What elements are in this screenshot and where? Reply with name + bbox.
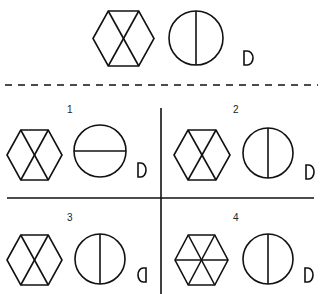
hexagon-x-cross <box>93 11 154 66</box>
option-label: 1 <box>67 104 73 115</box>
circle-vertical-divider <box>243 128 293 178</box>
hexagon-six-spokes <box>175 235 228 285</box>
d-shape-right <box>244 51 253 65</box>
circle-vertical-divider <box>75 234 125 284</box>
hexagon-x-cross <box>7 235 62 285</box>
option-label: 4 <box>233 212 239 223</box>
hexagon-x-cross <box>7 130 62 180</box>
d-shape-left <box>138 268 146 282</box>
question-figure <box>93 11 253 66</box>
circle-vertical-divider <box>243 234 293 284</box>
d-shape-right <box>306 165 314 179</box>
puzzle-canvas: 1 2 3 4 <box>0 0 324 294</box>
option-label: 3 <box>67 212 73 223</box>
option-label: 2 <box>233 104 239 115</box>
d-shape-right <box>305 268 313 282</box>
option-4[interactable]: 4 <box>175 212 313 285</box>
option-2[interactable]: 2 <box>174 104 314 180</box>
option-1[interactable]: 1 <box>7 104 146 180</box>
option-3[interactable]: 3 <box>7 212 146 285</box>
hexagon-x-cross <box>174 130 230 180</box>
circle-horizontal-divider <box>74 125 126 177</box>
d-shape-right <box>138 163 146 177</box>
circle-vertical-divider <box>169 11 223 65</box>
